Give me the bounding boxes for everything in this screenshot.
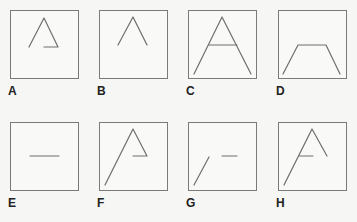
- panel-b: B: [99, 10, 179, 110]
- panel-f: F: [99, 122, 179, 222]
- panel-g-label: G: [186, 196, 195, 210]
- panel-d: D: [278, 10, 357, 110]
- panel-a-label: A: [8, 84, 17, 98]
- panel-a: A: [10, 10, 90, 110]
- panel-h: H: [278, 122, 357, 222]
- panel-e-drawing: [10, 122, 79, 191]
- panel-b-box: [99, 10, 168, 79]
- panel-d-label: D: [276, 84, 285, 98]
- panel-a-box: [10, 10, 79, 79]
- stroke-polyline: [283, 45, 340, 74]
- panel-a-drawing: [10, 10, 79, 79]
- stroke-line: [194, 157, 209, 185]
- panel-h-label: H: [276, 196, 285, 210]
- panel-c-box: [188, 10, 257, 79]
- panel-d-drawing: [278, 10, 347, 79]
- stroke-polyline: [284, 129, 327, 185]
- panel-h-box: [278, 122, 347, 191]
- stroke-polyline: [105, 129, 147, 185]
- panel-g-box: [188, 122, 257, 191]
- panel-e-label: E: [8, 196, 16, 210]
- panel-b-label: B: [97, 84, 106, 98]
- panel-c: C: [188, 10, 268, 110]
- panel-c-label: C: [186, 84, 195, 98]
- panel-g-drawing: [188, 122, 257, 191]
- panel-c-drawing: [188, 10, 257, 79]
- stroke-polyline: [118, 17, 147, 45]
- panel-d-box: [278, 10, 347, 79]
- panel-h-drawing: [278, 122, 347, 191]
- stroke-polyline: [29, 18, 58, 47]
- panel-f-label: F: [97, 196, 104, 210]
- panel-e: E: [10, 122, 90, 222]
- panel-e-box: [10, 122, 79, 191]
- panel-f-drawing: [99, 122, 168, 191]
- panel-g: G: [188, 122, 268, 222]
- panel-f-box: [99, 122, 168, 191]
- panel-b-drawing: [99, 10, 168, 79]
